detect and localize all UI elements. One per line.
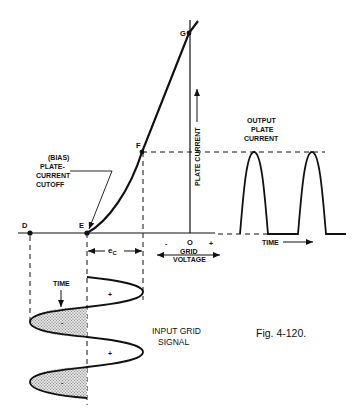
bias-label-line4: CUTOFF [36,181,65,188]
label-o: O [187,238,193,247]
point-d [27,230,32,235]
bias-label-line1: (BIAS) [48,154,69,162]
label-d: D [22,221,28,230]
grid-voltage-label-line1: GRID [180,248,198,255]
input-signal-negative-lobe-1 [30,307,87,337]
ec-label: eC [108,246,117,256]
grid-plus-sign: + [209,240,213,247]
input-grid-signal-label-line1: INPUT GRID [152,326,201,336]
signal-plus-2: + [108,350,112,357]
output-waveform [240,152,346,234]
label-f: F [136,141,141,150]
bias-label-line3: CURRENT [36,172,71,179]
input-signal-negative-lobe-2 [30,367,87,398]
grid-minus-sign: - [165,240,168,247]
input-grid-signal-label-line2: SIGNAL [158,337,189,347]
plate-current-axis-label: PLATE CURRENT [194,127,201,186]
grid-voltage-label-line2: VOLTAGE [173,256,206,263]
label-g: G [180,29,186,38]
figure-caption: Fig. 4-120. [256,327,306,339]
signal-plus-1: + [108,291,112,298]
output-label-line1: OUTPUT [247,117,277,124]
point-g [187,31,192,36]
bias-leader-line [70,171,112,229]
tube-transfer-characteristic-diagram: D E F G O (BIAS) PLATE- CURRENT CUTOFF P… [0,0,363,414]
bias-label-line2: PLATE- [40,163,65,170]
output-label-line3: CURRENT [244,135,279,142]
output-time-label: TIME [262,239,279,246]
output-label-line2: PLATE [251,126,274,133]
label-e: E [79,221,84,230]
input-time-label: TIME [53,280,70,287]
